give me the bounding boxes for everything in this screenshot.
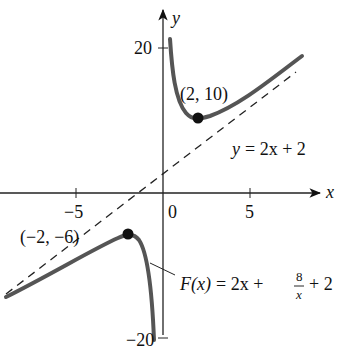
x-tick-label-neg5: −5 <box>64 202 83 222</box>
oblique-asymptote <box>6 72 296 294</box>
local-max-point <box>123 229 134 240</box>
function-graph: y x −5 0 5 20 −20 (2, 10) (−2, −6) y= 2x… <box>0 0 350 356</box>
local-min-point <box>193 113 204 124</box>
local-max-label: (−2, −6) <box>20 227 79 248</box>
svg-text:8: 8 <box>296 269 303 284</box>
y-tick-label-neg20: −20 <box>126 330 154 350</box>
svg-text:x: x <box>295 287 302 302</box>
y-tick-label-20: 20 <box>134 38 152 58</box>
curve-right-branch <box>170 39 302 119</box>
local-min-label: (2, 10) <box>180 84 228 105</box>
asymptote-label: y= 2x + 2 <box>230 139 306 159</box>
x-axis-label: x <box>325 182 334 202</box>
curve-left-branch <box>6 235 154 340</box>
x-tick-label-5: 5 <box>245 202 254 222</box>
x-tick-label-0: 0 <box>168 202 177 222</box>
svg-text:F(x)= 2x +: F(x)= 2x + <box>179 274 263 295</box>
svg-text:+ 2: + 2 <box>309 274 333 294</box>
y-axis-label: y <box>170 8 180 28</box>
function-label: F(x)= 2x + 8 x + 2 <box>179 269 333 302</box>
